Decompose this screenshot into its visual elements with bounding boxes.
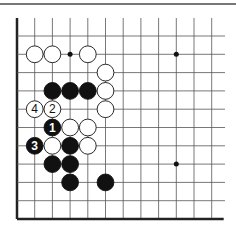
black-stone: [97, 174, 114, 191]
move-number: 4: [31, 102, 38, 116]
black-stone-move-1: 1: [44, 119, 61, 136]
white-stone: [79, 119, 96, 136]
white-stone: [79, 46, 96, 63]
move-number: 1: [49, 121, 56, 135]
white-stone: [62, 119, 79, 136]
white-stone-move-2: 2: [44, 101, 61, 118]
black-stone: [44, 83, 61, 100]
white-stone: [97, 83, 114, 100]
black-stone: [62, 83, 79, 100]
white-stone-move-4: 4: [26, 101, 43, 118]
move-number: 3: [31, 139, 38, 153]
white-stone: [97, 101, 114, 118]
black-stone: [62, 156, 79, 173]
white-stone: [79, 137, 96, 154]
star-point-icon: [68, 52, 73, 57]
star-point-icon: [174, 162, 179, 167]
white-stone: [26, 46, 43, 63]
black-stone: [44, 156, 61, 173]
move-number: 2: [49, 102, 56, 116]
black-stone: [62, 174, 79, 191]
white-stone: [44, 137, 61, 154]
black-stone: [79, 83, 96, 100]
white-stone: [97, 64, 114, 81]
white-stone: [44, 46, 61, 63]
black-stone: [62, 137, 79, 154]
star-point-icon: [174, 52, 179, 57]
black-stone-move-3: 3: [26, 137, 43, 154]
go-board: 4213: [0, 0, 236, 233]
